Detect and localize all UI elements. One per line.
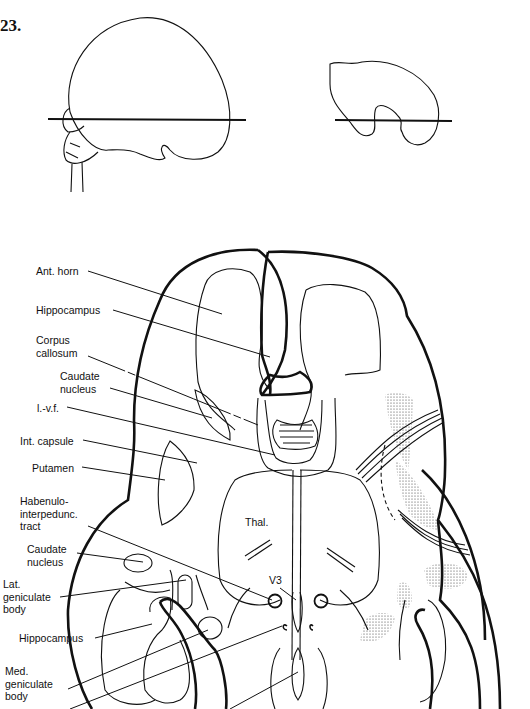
label-habenulo-tract: Habenulo- interpedunc. tract: [20, 495, 78, 533]
label-caudate-nucleus-top: Caudate nucleus: [60, 370, 100, 395]
label-hippocampus-bottom: Hippocampus: [19, 632, 83, 645]
label-hippocampus-top: Hippocampus: [36, 304, 100, 317]
label-caudate-nucleus-bottom: Caudate nucleus: [27, 543, 67, 568]
label-putamen: Putamen: [32, 462, 74, 475]
label-ant-horn: Ant. horn: [36, 265, 79, 278]
label-lat-geniculate-body: Lat. geniculate body: [3, 578, 51, 616]
label-lvf: l.-v.f.: [37, 402, 59, 415]
lateral-brain-sketch: [48, 18, 246, 192]
label-corpus-callosum: Corpus callosum: [36, 334, 77, 359]
label-med-geniculate-body: Med. geniculate body: [5, 665, 53, 703]
frontal-brain-sketch: [330, 61, 452, 144]
label-thalamus: Thal.: [245, 516, 268, 529]
label-v3: V3: [269, 574, 282, 587]
horizontal-section: [60, 250, 500, 709]
label-int-capsule: Int. capsule: [20, 435, 74, 448]
brain-section-diagram: [0, 0, 530, 709]
